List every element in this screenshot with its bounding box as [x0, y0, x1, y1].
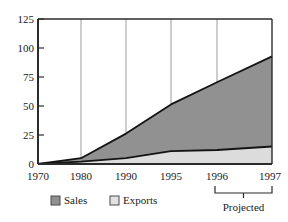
y-tick-label-25: 25 [23, 129, 35, 141]
chart-figure: 125 100 75 50 25 0 1970 1980 1990 1995 1… [0, 0, 288, 222]
y-tick-label-75: 75 [23, 71, 35, 83]
y-tick-labels: 125 100 75 50 25 0 [18, 13, 35, 170]
x-tick-label-1996: 1996 [206, 170, 229, 182]
legend-label-sales: Sales [64, 194, 87, 206]
legend-swatch-sales [51, 196, 60, 205]
y-tick-label-0: 0 [29, 158, 35, 170]
x-tick-label-1997: 1997 [259, 170, 282, 182]
chart-legend: Sales Exports [51, 194, 157, 206]
x-tick-label-1990: 1990 [115, 170, 138, 182]
x-tick-label-1995: 1995 [160, 170, 183, 182]
x-tick-label-1970: 1970 [27, 170, 50, 182]
legend-swatch-exports [110, 196, 119, 205]
area-chart-svg: 125 100 75 50 25 0 1970 1980 1990 1995 1… [0, 0, 288, 222]
x-tick-label-1980: 1980 [70, 170, 93, 182]
projected-label: Projected [223, 201, 265, 213]
projected-bracket-icon [215, 186, 272, 193]
y-tick-label-125: 125 [18, 13, 35, 25]
legend-label-exports: Exports [123, 194, 157, 206]
x-tick-labels: 1970 1980 1990 1995 1996 1997 [27, 170, 282, 182]
y-tick-label-100: 100 [18, 42, 35, 54]
y-tick-label-50: 50 [23, 100, 35, 112]
projected-annotation: Projected [215, 186, 272, 213]
